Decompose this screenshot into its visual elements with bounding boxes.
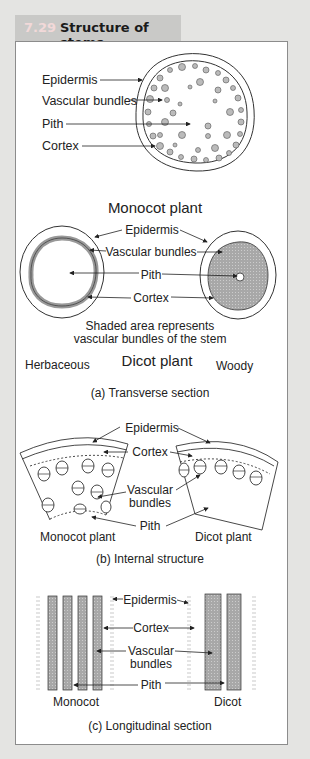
long-label-pith: Pith bbox=[141, 678, 162, 692]
internal-label-vascular-1: Vascular bbox=[127, 483, 173, 497]
internal-label-vascular-2: bundles bbox=[129, 496, 171, 510]
monocot-internal-diagram bbox=[20, 438, 128, 520]
label-vascular-bundles: Vascular bundles bbox=[42, 94, 137, 108]
internal-label-pith: Pith bbox=[140, 519, 161, 533]
dicot-label-vascular: Vascular bundles bbox=[105, 245, 196, 259]
internal-section-caption: (b) Internal structure bbox=[96, 552, 204, 566]
shading-note-line2: vascular bundles of the stem bbox=[74, 332, 227, 346]
long-label-vascular-1: Vascular bbox=[128, 644, 174, 658]
dicot-label-epidermis: Epidermis bbox=[125, 223, 178, 237]
long-label-cortex: Cortex bbox=[133, 621, 168, 635]
dicot-herbaceous-diagram bbox=[20, 226, 104, 318]
long-dicot-caption: Dicot bbox=[214, 695, 242, 709]
long-label-vascular-2: bundles bbox=[130, 657, 172, 671]
internal-dicot-caption: Dicot plant bbox=[195, 530, 252, 544]
woody-label: Woody bbox=[216, 359, 253, 373]
transverse-section-caption: (a) Transverse section bbox=[91, 386, 210, 400]
long-section-caption: (c) Longitudinal section bbox=[88, 719, 211, 733]
internal-label-cortex: Cortex bbox=[132, 445, 167, 459]
long-label-epidermis: Epidermis bbox=[123, 593, 176, 607]
monocot-caption: Monocot plant bbox=[108, 199, 203, 216]
internal-label-epidermis: Epidermis bbox=[125, 421, 178, 435]
herbaceous-label: Herbaceous bbox=[25, 358, 90, 372]
longitudinal-diagram bbox=[37, 594, 255, 690]
label-pith: Pith bbox=[42, 117, 64, 131]
long-monocot-caption: Monocot bbox=[53, 695, 100, 709]
dicot-internal-diagram bbox=[176, 442, 278, 530]
label-cortex: Cortex bbox=[42, 139, 80, 153]
dicot-label-pith: Pith bbox=[141, 268, 162, 282]
dicot-caption: Dicot plant bbox=[122, 352, 194, 369]
internal-monocot-caption: Monocot plant bbox=[40, 530, 116, 544]
label-epidermis: Epidermis bbox=[42, 73, 98, 87]
stem-diagram: Epidermis Vascular bundles Pith Cortex M… bbox=[0, 0, 310, 759]
shading-note-line1: Shaded area represents bbox=[86, 319, 215, 333]
monocot-transverse-diagram bbox=[66, 54, 254, 171]
dicot-label-cortex: Cortex bbox=[133, 291, 168, 305]
